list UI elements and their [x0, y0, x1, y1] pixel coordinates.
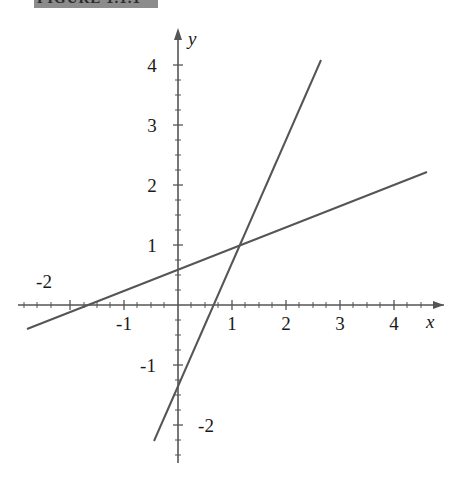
x-tick-label-4: 4: [389, 313, 399, 334]
y-tick-label-minus-2: -2: [198, 415, 214, 436]
y-axis-label: y: [186, 28, 197, 49]
x-axis-arrow: [433, 301, 444, 309]
y-axis-arrow: [174, 28, 182, 40]
x-tick-label-2: 2: [281, 313, 291, 334]
y-tick-label-2: 2: [147, 175, 157, 196]
figure-page: FIGURE 1.1.1: [0, 0, 472, 477]
y-tick-label-4: 4: [147, 55, 157, 76]
x-tick-label-minus-2: -2: [36, 271, 52, 292]
y-tick-label-minus-1: -1: [140, 355, 156, 376]
x-axis-label: x: [425, 311, 435, 332]
y-tick-label-3: 3: [147, 115, 157, 136]
y-tick-label-1: 1: [147, 235, 157, 256]
x-tick-label-3: 3: [335, 313, 345, 334]
axes-group: [18, 28, 444, 463]
x-tick-label-1: 1: [227, 313, 237, 334]
steep-line: [154, 60, 321, 441]
coordinate-plot: 4 3 2 1 -1 -2 -2 -1 1 2 3 4 y x: [0, 0, 472, 477]
x-tick-label-minus-1: -1: [116, 313, 132, 334]
